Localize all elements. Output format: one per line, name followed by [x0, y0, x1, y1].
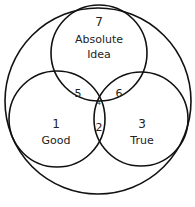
- top-label-line2: Idea: [87, 48, 111, 61]
- right-label: True: [129, 134, 154, 147]
- top-label-line1: Absolute: [75, 33, 123, 46]
- left-label: Good: [42, 134, 71, 147]
- intersection-top-left: 5: [75, 87, 82, 100]
- left-number: 1: [52, 117, 60, 131]
- intersection-left-right: 2: [96, 121, 103, 134]
- intersection-top-right: 6: [116, 87, 123, 100]
- top-number: 7: [95, 15, 103, 29]
- right-number: 3: [138, 117, 146, 131]
- venn-diagram: 7 Absolute Idea 1 Good 3 True 5 6 2 4: [0, 0, 195, 207]
- intersection-center: 4: [97, 99, 101, 106]
